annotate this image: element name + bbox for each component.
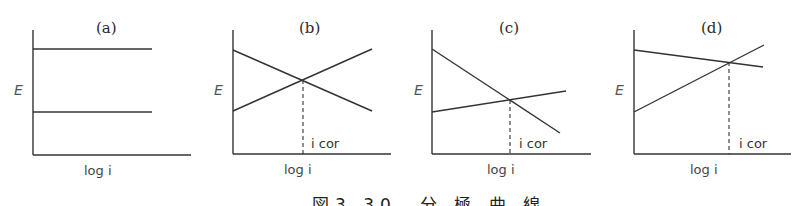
y-axis-label: E	[414, 82, 423, 98]
panel-d	[634, 30, 791, 154]
figure-caption: 図3.30 分 極 曲 線	[312, 195, 546, 206]
icor-label: i cor	[519, 136, 548, 151]
panel-label-a: (a)	[96, 19, 117, 37]
x-axis-label: log i	[284, 162, 312, 177]
y-axis-label: E	[214, 82, 223, 98]
panel-label-d: (d)	[701, 19, 722, 37]
x-axis-label: log i	[487, 162, 515, 177]
x-axis-label: log i	[84, 163, 112, 178]
cathodic-line	[634, 50, 763, 67]
x-axis-label: log i	[690, 162, 718, 177]
panel-c	[432, 30, 591, 154]
icor-label: i cor	[739, 136, 768, 151]
icor-label: i cor	[311, 136, 340, 151]
panel-label-c: (c)	[499, 19, 519, 37]
anodic-line	[432, 91, 566, 112]
y-axis-label: E	[615, 82, 624, 98]
y-axis-label: E	[14, 82, 23, 98]
panel-label-b: (b)	[299, 19, 320, 37]
anodic-line	[634, 45, 764, 112]
panel-a	[33, 30, 191, 155]
cathodic-line	[432, 49, 560, 133]
polarization-diagram-figure: (a) E log i (b) E log i i cor (c) E log …	[0, 0, 804, 206]
